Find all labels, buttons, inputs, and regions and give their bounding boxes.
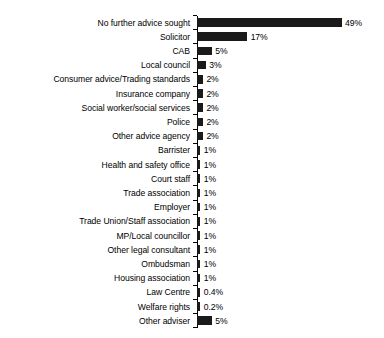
bar <box>197 103 203 112</box>
category-label: Insurance company <box>0 89 190 99</box>
category-label: Court staff <box>0 174 190 184</box>
category-label: Housing association <box>0 273 190 283</box>
plot-area: No further advice sought49%Solicitor17%C… <box>0 0 384 338</box>
bar-value-label: 1% <box>204 188 216 198</box>
bar-row: Police2% <box>0 115 384 129</box>
bar <box>197 189 200 198</box>
bar <box>197 32 247 41</box>
category-label: Other adviser <box>0 316 190 326</box>
bar-value-label: 1% <box>204 231 216 241</box>
bar-and-value: 1% <box>197 172 216 186</box>
bar-and-value: 1% <box>197 158 216 172</box>
bar-row: Law Centre0.4% <box>0 285 384 299</box>
bar <box>197 245 200 254</box>
bar-row: Other adviser5% <box>0 314 384 328</box>
bar <box>197 132 203 141</box>
bar-and-value: 5% <box>197 44 228 58</box>
bar <box>197 18 342 27</box>
bar-row: Barrister1% <box>0 143 384 157</box>
bar <box>197 160 200 169</box>
bar-and-value: 0.2% <box>197 300 223 314</box>
bar-and-value: 1% <box>197 214 216 228</box>
bar-and-value: 1% <box>197 186 216 200</box>
category-label: Ombudsman <box>0 259 190 269</box>
bar-value-label: 0.2% <box>204 302 223 312</box>
bar-value-label: 5% <box>215 316 227 326</box>
bar <box>197 75 203 84</box>
bar-value-label: 3% <box>209 60 221 70</box>
bar-value-label: 1% <box>204 245 216 255</box>
bar-row: Welfare rights0.2% <box>0 300 384 314</box>
bar-value-label: 1% <box>204 273 216 283</box>
bar-row: Trade association1% <box>0 186 384 200</box>
bar-row: Court staff1% <box>0 172 384 186</box>
bar <box>197 146 200 155</box>
bar-and-value: 2% <box>197 129 219 143</box>
bar <box>197 316 212 325</box>
bar-and-value: 1% <box>197 257 216 271</box>
bar-and-value: 2% <box>197 115 219 129</box>
bar <box>197 118 203 127</box>
category-label: Solicitor <box>0 32 190 42</box>
bar <box>197 288 200 297</box>
bar-row: Ombudsman1% <box>0 257 384 271</box>
bar-and-value: 17% <box>197 30 268 44</box>
bar-row: Consumer advice/Trading standards2% <box>0 72 384 86</box>
bar-row: No further advice sought49% <box>0 16 384 30</box>
bar-row: MP/Local councillor1% <box>0 229 384 243</box>
bar-row: Insurance company2% <box>0 87 384 101</box>
bar-value-label: 1% <box>204 160 216 170</box>
category-label: Social worker/social services <box>0 103 190 113</box>
bar-value-label: 2% <box>206 89 218 99</box>
category-label: CAB <box>0 46 190 56</box>
bar-and-value: 5% <box>197 314 228 328</box>
bar-value-label: 1% <box>204 145 216 155</box>
bar-and-value: 1% <box>197 243 216 257</box>
axis-tick <box>193 15 197 16</box>
bar <box>197 89 203 98</box>
bar-row: Other legal consultant1% <box>0 243 384 257</box>
bar-value-label: 49% <box>345 18 362 28</box>
bar <box>197 302 200 311</box>
bar-and-value: 2% <box>197 72 219 86</box>
bar-value-label: 2% <box>206 117 218 127</box>
bar-row: CAB5% <box>0 44 384 58</box>
bar-and-value: 0.4% <box>197 285 223 299</box>
bar-row: Social worker/social services2% <box>0 101 384 115</box>
horizontal-bar-chart: No further advice sought49%Solicitor17%C… <box>0 0 384 338</box>
bar <box>197 203 200 212</box>
bar-value-label: 1% <box>204 259 216 269</box>
bar-row: Health and safety office1% <box>0 158 384 172</box>
axis-tick <box>193 327 197 328</box>
bar-and-value: 2% <box>197 87 219 101</box>
bar <box>197 217 200 226</box>
category-label: Health and safety office <box>0 160 190 170</box>
category-label: Consumer advice/Trading standards <box>0 74 190 84</box>
bar-and-value: 49% <box>197 16 362 30</box>
bar-value-label: 5% <box>215 46 227 56</box>
bar-row: Trade Union/Staff association1% <box>0 214 384 228</box>
bar-value-label: 1% <box>204 202 216 212</box>
category-label: Trade association <box>0 188 190 198</box>
category-label: Welfare rights <box>0 302 190 312</box>
bar-row: Other advice agency2% <box>0 129 384 143</box>
bar-value-label: 1% <box>204 216 216 226</box>
bar <box>197 61 206 70</box>
category-label: Trade Union/Staff association <box>0 216 190 226</box>
bar-and-value: 3% <box>197 58 222 72</box>
bar <box>197 47 212 56</box>
bar-value-label: 2% <box>206 103 218 113</box>
bar <box>197 174 200 183</box>
category-label: Police <box>0 117 190 127</box>
bar-and-value: 1% <box>197 271 216 285</box>
category-label: Other legal consultant <box>0 245 190 255</box>
bar <box>197 231 200 240</box>
category-label: Local council <box>0 60 190 70</box>
bar-and-value: 2% <box>197 101 219 115</box>
bar-row: Local council3% <box>0 58 384 72</box>
bar <box>197 260 200 269</box>
category-label: Employer <box>0 202 190 212</box>
bar-value-label: 2% <box>206 74 218 84</box>
bar-row: Employer1% <box>0 200 384 214</box>
bar-value-label: 17% <box>251 32 268 42</box>
